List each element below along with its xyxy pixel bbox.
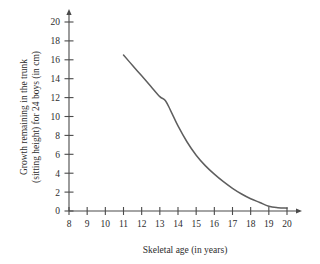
data-series-group	[124, 55, 288, 208]
x-axis-tick-labels: 891011121314151617181920	[67, 219, 292, 229]
x-tick-label-12: 12	[137, 219, 147, 229]
x-tick-label-17: 17	[228, 219, 238, 229]
y-tick-label-20: 20	[51, 17, 61, 27]
y-axis-title: Growth remaining in the trunk (sitting h…	[19, 51, 42, 183]
line-chart: 891011121314151617181920 024681012141618…	[0, 0, 320, 264]
y-axis-title-line-2: (sitting height) for 24 boys (in cm)	[31, 51, 42, 183]
x-tick-label-10: 10	[101, 219, 111, 229]
x-axis-title: Skeletal age (in years)	[143, 245, 228, 256]
x-tick-label-19: 19	[264, 219, 274, 229]
data-curve-0	[124, 55, 288, 208]
y-tick-label-18: 18	[51, 36, 61, 46]
y-tick-label-14: 14	[51, 74, 61, 84]
y-axis-title-line-1: Growth remaining in the trunk	[19, 59, 29, 175]
y-tick-label-8: 8	[55, 131, 60, 141]
y-tick-label-10: 10	[51, 112, 61, 122]
axes-group	[66, 9, 302, 214]
chart-figure: 891011121314151617181920 024681012141618…	[0, 0, 320, 264]
y-axis-arrowhead	[66, 9, 71, 15]
x-tick-label-16: 16	[210, 219, 220, 229]
x-tick-label-13: 13	[155, 219, 165, 229]
x-tick-label-18: 18	[246, 219, 256, 229]
y-tick-label-12: 12	[51, 93, 61, 103]
y-tick-label-0: 0	[55, 206, 60, 216]
x-tick-label-9: 9	[85, 219, 90, 229]
x-tick-label-15: 15	[191, 219, 201, 229]
y-tick-label-6: 6	[55, 150, 60, 160]
y-tick-label-16: 16	[51, 55, 61, 65]
y-axis-tick-labels: 02468101214161820	[51, 17, 61, 216]
x-tick-label-8: 8	[67, 219, 72, 229]
x-tick-label-14: 14	[173, 219, 183, 229]
x-axis-arrowhead	[296, 208, 302, 213]
y-tick-label-2: 2	[55, 188, 60, 198]
y-tick-label-4: 4	[55, 169, 60, 179]
x-tick-label-11: 11	[119, 219, 128, 229]
x-tick-label-20: 20	[282, 219, 292, 229]
